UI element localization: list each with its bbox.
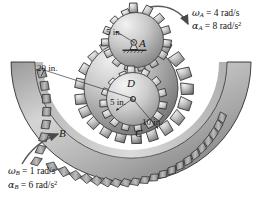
gear-b-label: B [59, 128, 66, 139]
alpha-a-subscript: A [198, 24, 202, 31]
omega-a-symbol: ω [192, 7, 200, 18]
alpha-b-value: = 6 rad/s [21, 180, 54, 190]
radius-c-label: 10 in. [142, 118, 163, 127]
omega-a-subscript: A [200, 11, 204, 18]
omega-b-subscript: B [16, 169, 20, 176]
radius-d-label: 5 in. [110, 98, 126, 107]
omega-b-symbol: ω [8, 165, 16, 176]
alpha-a-exponent: 2 [238, 20, 241, 27]
alpha-b-exponent: 2 [54, 179, 57, 186]
alpha-b-subscript: B [14, 183, 18, 190]
omega-a-value: = 4 rad/s [206, 8, 239, 18]
alpha-a-value: = 8 rad/s [205, 21, 238, 31]
radius-b-label: 20 in. [37, 64, 58, 73]
figure-canvas: ωA = 4 rad/s αA = 8 rad/s2 ωB = 1 rad/s … [0, 0, 262, 202]
gear-c-label: C [135, 128, 142, 139]
radius-a-label: 5 in. [106, 28, 122, 37]
alpha-a-annotation: αA = 8 rad/s2 [192, 21, 241, 32]
alpha-b-annotation: αB = 6 rad/s2 [8, 180, 57, 191]
gear-d-label: D [127, 78, 135, 89]
gear-a-label: A [139, 38, 146, 49]
omega-b-annotation: ωB = 1 rad/s [8, 166, 55, 177]
omega-a-annotation: ωA = 4 rad/s [192, 8, 239, 19]
omega-b-value: = 1 rad/s [22, 166, 55, 176]
